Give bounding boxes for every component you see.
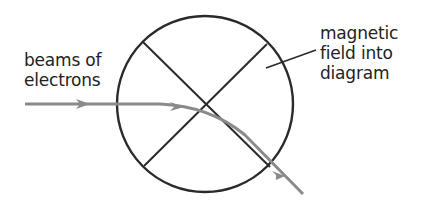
label-line: beams of	[24, 50, 101, 70]
field-label-pointer	[266, 50, 316, 68]
label-line: magnetic	[320, 23, 398, 43]
label-line: electrons	[24, 70, 101, 90]
label-line: diagram	[320, 63, 398, 83]
label-line: field into	[320, 43, 398, 63]
electron-beam-path	[25, 104, 303, 194]
beam-arrow-icon	[170, 102, 184, 111]
magnetic-field-label: magnetic field into diagram	[320, 23, 398, 83]
beams-of-electrons-label: beams of electrons	[24, 50, 101, 90]
